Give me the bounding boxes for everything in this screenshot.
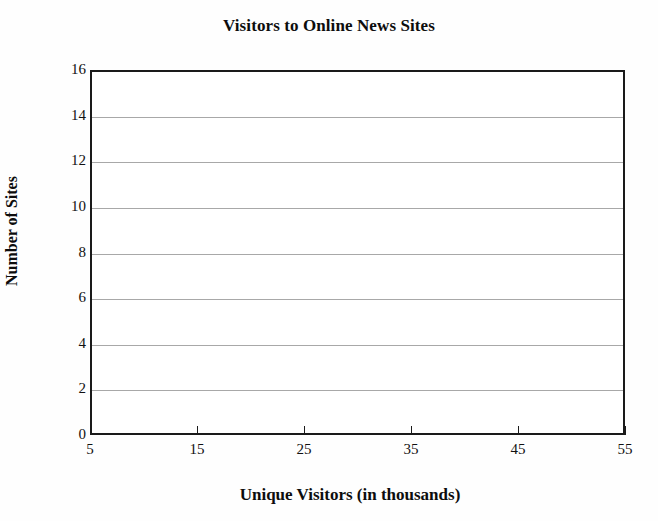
x-tick-mark: [625, 426, 626, 435]
y-tick-label: 4: [50, 336, 86, 351]
y-tick-label: 12: [50, 153, 86, 168]
y-tick-label: 6: [50, 290, 86, 305]
x-tick-label: 35: [391, 440, 431, 458]
gridline-horizontal: [92, 390, 623, 391]
chart-title: Visitors to Online News Sites: [0, 16, 658, 36]
chart-figure: Visitors to Online News Sites Number of …: [0, 0, 658, 521]
y-tick-label: 10: [50, 199, 86, 214]
x-axis-title: Unique Visitors (in thousands): [0, 485, 658, 505]
x-tick-label: 5: [70, 440, 110, 458]
x-axis-tick-labels: 51525354555: [90, 440, 625, 464]
x-tick-label: 25: [284, 440, 324, 458]
y-axis-tick-labels: 0246810121416: [50, 70, 86, 435]
y-axis-title: Number of Sites: [3, 131, 21, 331]
gridline-horizontal: [92, 162, 623, 163]
y-tick-label: 14: [50, 108, 86, 123]
gridline-horizontal: [92, 299, 623, 300]
gridline-horizontal: [92, 208, 623, 209]
y-tick-label: 16: [50, 62, 86, 77]
x-tick-label: 45: [498, 440, 538, 458]
x-tick-label: 15: [177, 440, 217, 458]
plot-area: [90, 70, 625, 435]
gridline-horizontal: [92, 117, 623, 118]
gridline-horizontal: [92, 345, 623, 346]
x-tick-label: 55: [605, 440, 645, 458]
y-tick-label: 8: [50, 245, 86, 260]
gridline-horizontal: [92, 254, 623, 255]
y-tick-label: 2: [50, 381, 86, 396]
